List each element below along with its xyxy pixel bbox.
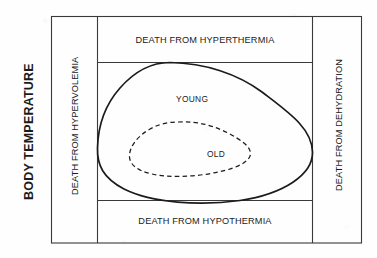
old-tolerance-curve: [129, 122, 250, 177]
curve-label-old: OLD: [207, 149, 225, 159]
zone-label-hypervolemia: DEATH FROM HYPERVOLEMIA: [70, 57, 80, 195]
zone-label-hypothermia: DEATH FROM HYPOTHERMIA: [97, 216, 313, 226]
zone-label-dehydration: DEATH FROM DEHYDRATION: [334, 59, 344, 191]
figure-canvas: BODY TEMPERATURE DEATH FROM HYPERVOLEMIA…: [0, 0, 377, 258]
zone-label-hyperthermia: DEATH FROM HYPERTHERMIA: [97, 35, 313, 45]
curve-label-young: YOUNG: [176, 94, 208, 104]
young-tolerance-curve: [97, 63, 312, 204]
y-axis-label: BODY TEMPERATURE: [22, 63, 36, 200]
